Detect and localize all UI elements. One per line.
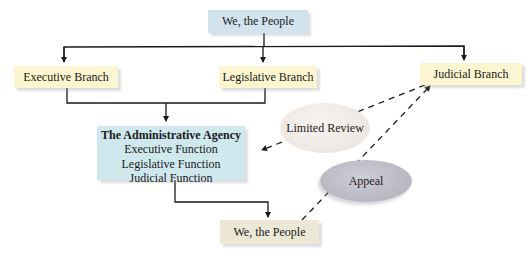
node-label: We, the People bbox=[220, 220, 319, 244]
appeal-ellipse: Appeal bbox=[320, 160, 412, 202]
node-judicial-branch: Judicial Branch bbox=[420, 63, 522, 85]
appeal-label: Appeal bbox=[349, 174, 384, 189]
limited-review-ellipse: Limited Review bbox=[280, 103, 370, 153]
connector-lines bbox=[0, 0, 531, 256]
node-administrative-agency: The Administrative Agency Executive Func… bbox=[97, 126, 245, 180]
node-executive-branch: Executive Branch bbox=[14, 66, 118, 88]
agency-function: Legislative Function bbox=[97, 157, 245, 171]
edge-bus bbox=[64, 46, 464, 62]
node-label: Judicial Branch bbox=[420, 63, 522, 85]
edge-branches-merge bbox=[67, 88, 265, 103]
agency-function: Executive Function bbox=[97, 142, 245, 156]
limited-review-label: Limited Review bbox=[286, 121, 364, 136]
agency-flow-diagram: We, the People Executive Branch Legislat… bbox=[0, 0, 531, 256]
node-people-top: We, the People bbox=[208, 10, 308, 33]
node-legislative-branch: Legislative Branch bbox=[219, 66, 317, 88]
node-people-bottom: We, the People bbox=[220, 220, 319, 244]
agency-title: The Administrative Agency bbox=[97, 128, 245, 142]
node-label: Legislative Branch bbox=[219, 66, 317, 88]
node-label: Executive Branch bbox=[14, 66, 118, 88]
agency-function: Judicial Function bbox=[97, 171, 245, 185]
node-label: We, the People bbox=[208, 10, 308, 33]
